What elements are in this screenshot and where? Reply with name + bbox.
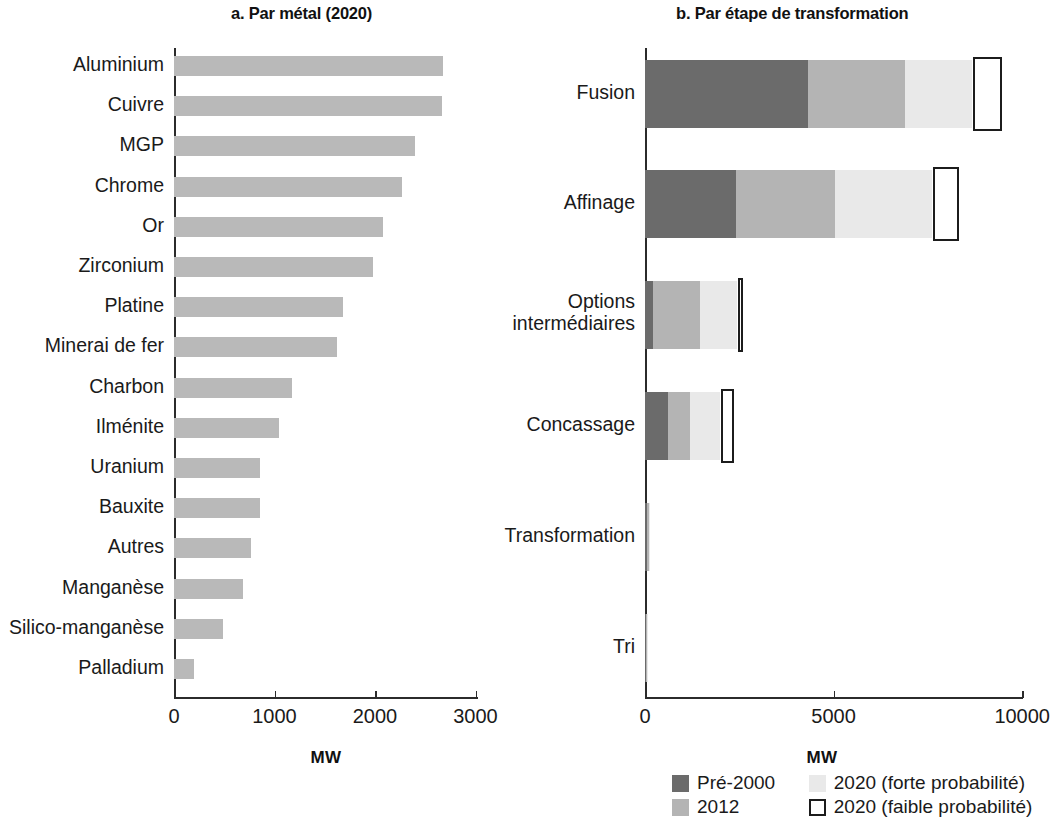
panel-b-stacked-bar — [645, 170, 1045, 238]
segment-2020-forte — [690, 392, 720, 460]
legend-label: 2020 (forte probabilité) — [834, 772, 1025, 794]
legend-item: Pré-2000 — [672, 772, 795, 794]
panel-a-category-label: Minerai de fer — [45, 335, 164, 357]
panel-a-bar — [174, 659, 194, 679]
legend-swatch-icon — [672, 775, 689, 792]
panel-b-y-axis — [645, 48, 647, 698]
panel-a-title: a. Par métal (2020) — [231, 4, 372, 23]
panel-a-category-label: Cuivre — [108, 94, 164, 116]
panel-a-bar — [174, 337, 337, 357]
panel-a-category-label: MGP — [120, 134, 164, 156]
segment-2020-forte — [905, 60, 972, 128]
figure-root: a. Par métal (2020) AluminiumCuivreMGPCh… — [0, 0, 1059, 829]
panel-a-bar — [174, 458, 260, 478]
panel-a-tick-label: 0 — [168, 705, 179, 728]
panel-a-category-label: Autres — [108, 536, 164, 558]
legend-item: 2020 (faible probabilité) — [809, 796, 1052, 818]
panel-a-category-label: Zirconium — [78, 255, 164, 277]
panel-b-category-label: Tri — [613, 636, 635, 658]
panel-a-bar — [174, 297, 343, 317]
panel-a-tick — [476, 691, 478, 698]
legend-swatch-icon — [809, 799, 826, 816]
panel-b-tick-label: 0 — [639, 705, 650, 728]
panel-a-category-label: Chrome — [95, 175, 164, 197]
panel-a-tick-label: 3000 — [453, 705, 498, 728]
segment-2020-forte — [700, 281, 737, 349]
panel-a-bar — [174, 579, 243, 599]
panel-a-tick-label: 1000 — [252, 705, 297, 728]
segment-2020-forte — [649, 503, 651, 571]
segment-2012 — [653, 281, 699, 349]
panel-a-category-label: Silico-manganèse — [9, 617, 164, 639]
panel-b-title: b. Par étape de transformation — [676, 4, 908, 23]
panel-a-bar — [174, 217, 383, 237]
panel-a-bar — [174, 136, 415, 156]
panel-b-category-label: Concassage — [527, 414, 635, 436]
panel-b-tick-label: 5000 — [811, 705, 856, 728]
panel-a-bar — [174, 619, 223, 639]
panel-b-stacked-bar — [645, 503, 1045, 571]
panel-a-tick-label: 2000 — [353, 705, 398, 728]
panel-a-axis-title: MW — [311, 748, 342, 768]
panel-b-stacked-bar — [645, 60, 1045, 128]
panel-a-bar — [174, 498, 260, 518]
panel-a-tick — [275, 691, 277, 698]
panel-a-category-label: Or — [142, 215, 164, 237]
panel-b-category-label: Transformation — [505, 525, 635, 547]
legend-item: 2020 (forte probabilité) — [809, 772, 1052, 794]
legend-label: 2012 — [697, 796, 739, 818]
panel-b-tick — [1022, 691, 1024, 698]
panel-b-category-label: Optionsintermédiaires — [513, 291, 635, 335]
legend: Pré-20002020 (forte probabilité)20122020… — [672, 772, 1052, 818]
panel-a-bar — [174, 378, 292, 398]
panel-b-axis-title: MW — [807, 748, 838, 768]
panel-a-x-axis — [174, 697, 478, 699]
panel-b-stacked-bar — [645, 614, 1045, 682]
segment-2020-faible — [973, 57, 1002, 131]
legend-item: 2012 — [672, 796, 795, 818]
segment-2012 — [736, 170, 835, 238]
panel-a-category-label: Charbon — [89, 376, 164, 398]
panel-a-bar — [174, 177, 402, 197]
legend-swatch-icon — [672, 799, 689, 816]
segment-2020-forte — [647, 614, 648, 682]
panel-a-category-label: Bauxite — [99, 496, 164, 518]
panel-b-tick-label: 10000 — [994, 705, 1050, 728]
panel-a-bar — [174, 538, 251, 558]
panel-a-category-label: Platine — [104, 295, 164, 317]
panel-b-category-label: Affinage — [564, 192, 635, 214]
segment-2020-faible — [721, 389, 733, 463]
panel-a-bar — [174, 257, 373, 277]
panel-b-stacked-bar — [645, 281, 1045, 349]
panel-a-category-label: Uranium — [90, 456, 164, 478]
panel-a-category-label: Manganèse — [62, 577, 164, 599]
panel-a-plot: AluminiumCuivreMGPChromeOrZirconiumPlati… — [0, 40, 530, 740]
panel-b-stacked-bar — [645, 392, 1045, 460]
panel-a-category-label: Ilménite — [96, 416, 164, 438]
panel-a-category-label: Palladium — [78, 657, 164, 679]
panel-a-bar — [174, 418, 279, 438]
legend-label: 2020 (faible probabilité) — [834, 796, 1033, 818]
panel-a-tick — [174, 691, 176, 698]
panel-b-category-label: Fusion — [576, 82, 635, 104]
panel-a-bar — [174, 56, 443, 76]
panel-a-bar — [174, 96, 442, 116]
panel-a-category-label: Aluminium — [73, 54, 164, 76]
segment-pre-2000 — [645, 60, 808, 128]
segment-pre-2000 — [645, 281, 653, 349]
legend-label: Pré-2000 — [697, 772, 775, 794]
panel-b-tick — [645, 691, 647, 698]
segment-2020-faible — [933, 167, 959, 241]
legend-swatch-icon — [809, 775, 826, 792]
segment-2012 — [668, 392, 690, 460]
segment-2020-faible — [738, 278, 743, 352]
panel-b-tick — [834, 691, 836, 698]
panel-a-tick — [375, 691, 377, 698]
segment-2012 — [808, 60, 905, 128]
segment-pre-2000 — [645, 392, 668, 460]
segment-pre-2000 — [645, 170, 736, 238]
segment-2020-forte — [835, 170, 932, 238]
panel-b-plot: FusionAffinageOptionsintermédiairesConca… — [530, 40, 1059, 740]
